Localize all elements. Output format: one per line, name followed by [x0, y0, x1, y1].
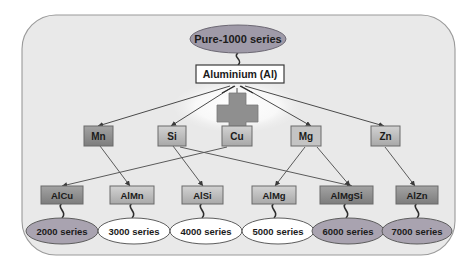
label-alloy-alsi: AlSi [182, 186, 223, 204]
label-series-5000: 5000 series [242, 222, 314, 240]
label-alloy-alcu: AlCu [41, 186, 83, 204]
label-element-cu: Cu [222, 126, 252, 146]
label-element-mn: Mn [84, 126, 113, 146]
diagram-canvas: Pure-1000 series Aluminium (Al) Mn Si Cu… [0, 0, 470, 266]
label-aluminium-base: Aluminium (Al) [196, 65, 284, 83]
label-alloy-alzn: AlZn [396, 186, 438, 204]
label-series-6000: 6000 series [312, 222, 384, 240]
label-series-2000: 2000 series [26, 222, 98, 240]
label-alloy-almn: AlMn [110, 186, 154, 204]
label-series-7000: 7000 series [382, 222, 452, 240]
label-series-3000: 3000 series [98, 222, 170, 240]
label-alloy-almg: AlMg [252, 186, 296, 204]
label-element-mg: Mg [291, 126, 321, 146]
label-element-si: Si [158, 126, 186, 146]
label-pure-1000-series: Pure-1000 series [190, 30, 286, 48]
label-alloy-almgsi: AlMgSi [320, 186, 373, 204]
label-series-4000: 4000 series [170, 222, 242, 240]
label-element-zn: Zn [371, 126, 400, 146]
